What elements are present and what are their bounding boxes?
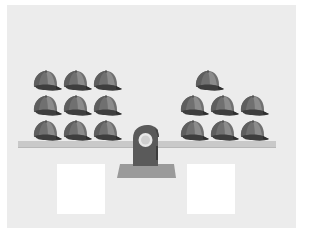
cap-icon [31,68,63,94]
cap-icon [61,68,93,94]
left-answer-box[interactable] [57,164,105,214]
cap-icon [61,93,93,119]
cap-icon [208,93,240,119]
cap-icon [193,68,225,94]
cap-icon [91,93,123,119]
fulcrum-icon [116,124,178,180]
cap-icon [31,93,63,119]
cap-icon [238,93,270,119]
cap-icon [178,93,210,119]
cap-icon [91,68,123,94]
right-answer-box[interactable] [187,164,235,214]
